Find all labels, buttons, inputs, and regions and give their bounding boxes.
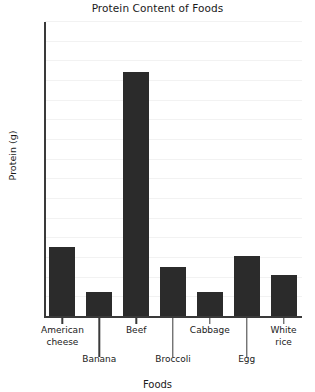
gridline [45, 218, 302, 219]
x-axis-tick-label: Whiterice [241, 325, 315, 348]
y-axis-line [44, 22, 46, 317]
gridline [45, 178, 302, 179]
bar [197, 292, 223, 316]
gridline [45, 198, 302, 199]
gridline [45, 139, 302, 140]
chart-title: Protein Content of Foods [0, 2, 315, 14]
gridline [45, 60, 302, 61]
x-axis-tick [99, 317, 100, 357]
x-axis-tick-label: Egg [204, 354, 290, 366]
bar-chart: Protein Content of Foods Protein (g) 024… [0, 0, 315, 392]
x-axis-tick [172, 317, 173, 357]
bar [49, 247, 75, 316]
gridline [45, 41, 302, 42]
gridline [45, 237, 302, 238]
bar [234, 256, 260, 316]
y-axis-title: Protein (g) [7, 121, 18, 191]
gridline [45, 257, 302, 258]
x-axis-ticks-and-labels: AmericancheeseBananaBeefBroccoliCabbageE… [44, 317, 302, 377]
plot-area [44, 22, 302, 317]
bar [160, 267, 186, 316]
bar [123, 72, 149, 316]
gridline [45, 159, 302, 160]
gridline [45, 119, 302, 120]
x-axis-tick [62, 317, 63, 324]
bar [86, 292, 112, 316]
gridline [45, 80, 302, 81]
gridline [45, 100, 302, 101]
x-axis-tick [209, 317, 210, 324]
x-axis-tick [135, 317, 136, 324]
gridline [45, 21, 302, 22]
x-axis-tick [283, 317, 284, 324]
x-axis-title: Foods [0, 379, 315, 390]
bar [271, 275, 297, 316]
